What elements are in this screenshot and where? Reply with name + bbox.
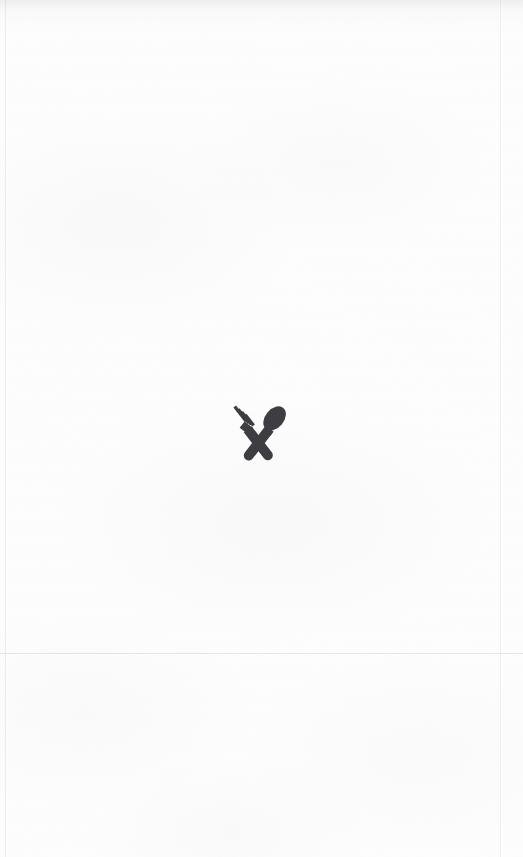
left-seam-line xyxy=(5,0,6,857)
horizontal-seam-line xyxy=(0,653,523,654)
page-canvas xyxy=(0,0,523,857)
right-seam-line xyxy=(500,0,501,857)
top-edge-shading xyxy=(0,0,523,10)
fork-and-spoon-crossed-icon xyxy=(226,399,291,463)
